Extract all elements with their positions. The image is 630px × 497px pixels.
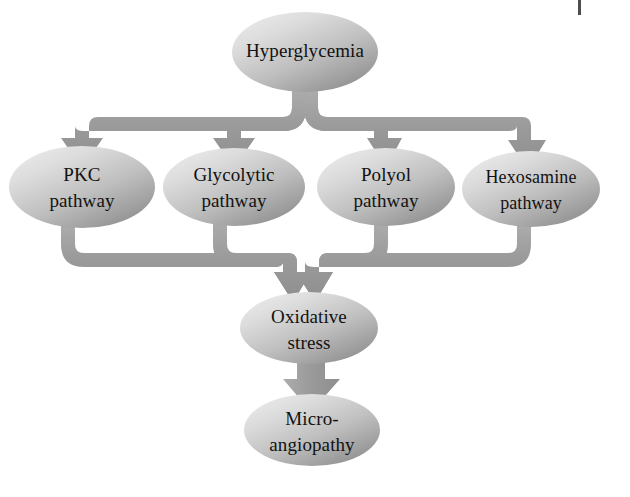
node-hexosamine[interactable]: Hexosamine pathway xyxy=(462,151,600,227)
node-hyperglycemia[interactable]: Hyperglycemia xyxy=(232,12,378,92)
node-glycolytic[interactable]: Glycolytic pathway xyxy=(163,148,305,226)
node-polyol-label-line1: Polyol xyxy=(361,164,411,185)
edge-group-hyperglycemia-out xyxy=(61,88,546,170)
page-edge-artifact xyxy=(578,0,581,15)
node-oxidative-stress-label-line1: Oxidative xyxy=(271,306,347,327)
edge-glycolytic-to-oxidative-stress xyxy=(213,220,311,302)
node-glycolytic-label-line1: Glycolytic xyxy=(193,164,274,185)
edge-group-oxidative-in xyxy=(61,220,531,302)
node-polyol-shape xyxy=(317,148,455,226)
node-hexosamine-shape xyxy=(462,151,600,227)
diagram-canvas: Hyperglycemia PKC pathway Glycolytic pat… xyxy=(0,0,630,497)
node-pkc-label-line2: pathway xyxy=(49,190,114,211)
node-glycolytic-shape xyxy=(163,148,305,226)
node-pkc-shape xyxy=(9,146,155,228)
node-micro-angiopathy-label-line2: angiopathy xyxy=(269,434,355,455)
node-pkc[interactable]: PKC pathway xyxy=(9,146,155,228)
node-micro-angiopathy[interactable]: Micro- angiopathy xyxy=(244,394,380,466)
edge-hexosamine-to-oxidative-stress xyxy=(296,222,531,302)
node-oxidative-stress[interactable]: Oxidative stress xyxy=(240,292,378,364)
node-hyperglycemia-label: Hyperglycemia xyxy=(246,40,365,61)
node-oxidative-stress-label-line2: stress xyxy=(288,332,331,353)
node-polyol[interactable]: Polyol pathway xyxy=(317,148,455,226)
node-micro-angiopathy-label-line1: Micro- xyxy=(285,408,338,429)
node-group: Hyperglycemia PKC pathway Glycolytic pat… xyxy=(9,12,600,466)
node-glycolytic-label-line2: pathway xyxy=(201,190,266,211)
node-polyol-label-line2: pathway xyxy=(353,190,418,211)
hyperglycemia-pathway-flowchart: Hyperglycemia PKC pathway Glycolytic pat… xyxy=(0,0,630,497)
node-hexosamine-label-line1: Hexosamine xyxy=(486,167,577,187)
node-pkc-label-line1: PKC xyxy=(63,164,100,185)
node-hexosamine-label-line2: pathway xyxy=(500,193,562,213)
